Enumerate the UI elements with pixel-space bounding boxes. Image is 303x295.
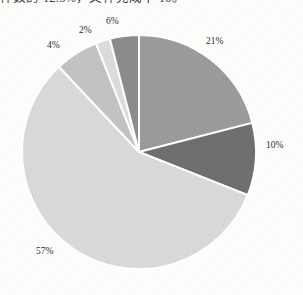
pie-slice-label: 4% [47,40,60,50]
pie-slice-label: 2% [79,25,92,35]
pie-slice-label: 10% [266,140,283,150]
pie-slices-group [22,35,256,269]
pie-slice-label: 6% [106,16,119,26]
pie-chart-page: 件数的 12.5%，文件完成十 10。 21%10%57%6%2%4% [0,0,303,295]
pie-slice-label: 57% [36,246,53,256]
pie-slice-label: 21% [206,36,223,46]
